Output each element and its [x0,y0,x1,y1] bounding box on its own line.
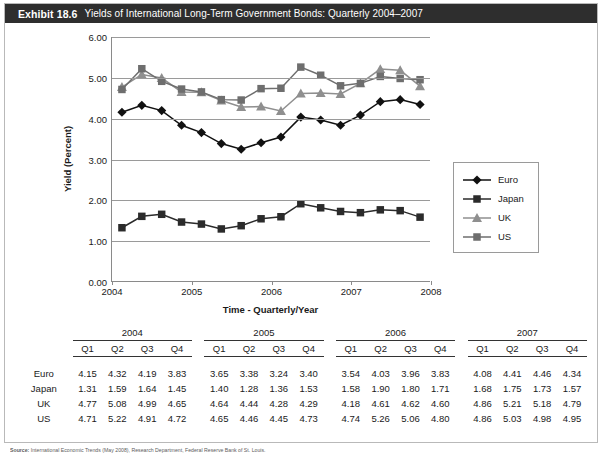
data-point [257,215,264,222]
year-header-2007: 2007 [468,325,587,341]
data-point [237,96,244,103]
table-cell: 4.19 [132,366,162,381]
table-gap-cell [324,366,336,381]
table-cell: 4.73 [294,411,324,426]
exhibit-number: Exhibit 18.6 [18,8,78,20]
table-gap-cell [192,366,204,381]
data-point [377,206,384,213]
table-cell: 5.06 [396,411,426,426]
year-header-2004: 2004 [73,325,192,341]
table-cell: 4.45 [264,411,294,426]
legend-marker-diamond-icon [462,173,492,187]
legend-item-euro[interactable]: Euro [462,170,538,189]
table-cell: 3.40 [294,366,324,381]
gridline [112,160,430,161]
table-cell: 4.34 [557,366,587,381]
x-axis-title: Time - Quarterly/Year [111,304,430,315]
table-cell: 1.57 [557,381,587,396]
gridline [112,78,430,79]
quarter-header-2004-Q2: Q2 [102,341,132,357]
quarter-header-2005-Q4: Q4 [294,341,324,357]
table-spacer-cell [15,357,587,367]
gridline [112,119,430,120]
table-cell: 4.91 [132,411,162,426]
data-point [297,63,304,70]
gridline [112,37,430,38]
quarter-header-2004-Q3: Q3 [132,341,162,357]
table-cell: 1.40 [204,381,234,396]
data-point [178,85,185,92]
table-cell: 3.83 [425,366,455,381]
table-cell: 4.18 [336,396,366,411]
year-header-2006: 2006 [336,325,455,341]
table-cell: 4.46 [234,411,264,426]
x-tick-label: 2004 [101,286,122,297]
plot-area: 0.001.002.003.004.005.006.00200420052006… [111,37,430,282]
header-gap [324,325,336,341]
table-corner-cell [15,325,73,341]
source-text: International Economic Trends (May 2008)… [31,447,266,453]
table-cell: 4.60 [425,396,455,411]
table-quarter-header-row: Q1Q2Q3Q4Q1Q2Q3Q4Q1Q2Q3Q4Q1Q2Q3Q4 [15,341,587,357]
data-point [137,101,146,110]
header-gap [324,341,336,357]
table-cell: 4.29 [294,396,324,411]
x-tick [431,281,432,285]
year-header-2005: 2005 [204,325,323,341]
data-point [317,204,324,211]
table-cell: 1.53 [294,381,324,396]
x-tick [351,281,352,285]
source-line: Source: International Economic Trends (M… [10,447,600,453]
header-gap [455,325,467,341]
data-point [198,220,205,227]
quarter-header-2007-Q4: Q4 [557,341,587,357]
table-cell: 1.45 [162,381,192,396]
table-cell: 4.72 [162,411,192,426]
table-cell: 4.65 [204,411,234,426]
data-point [237,145,246,154]
exhibit-header-bar: Exhibit 18.6 Yields of International Lon… [5,4,597,23]
x-tick-label: 2005 [181,286,202,297]
data-point [337,208,344,215]
data-point [337,82,344,89]
data-point [118,86,125,93]
table-gap-cell [324,381,336,396]
data-point [217,139,226,148]
legend-marker-triangle-icon [462,211,492,225]
table-row: Euro4.154.324.193.833.653.383.243.403.54… [15,366,587,381]
header-gap [192,325,204,341]
table-cell: 1.68 [468,381,498,396]
table-cell: 4.64 [204,396,234,411]
legend-item-us[interactable]: US [462,227,538,246]
series-euro [117,95,424,154]
table-cell: 4.08 [468,366,498,381]
table-cell: 4.99 [132,396,162,411]
data-point [415,100,424,109]
table-corner-cell [15,341,73,357]
table-cell: 4.77 [73,396,103,411]
legend-label: Japan [498,193,524,204]
legend-item-japan[interactable]: Japan [462,189,538,208]
quarter-header-2006-Q4: Q4 [425,341,455,357]
row-label-us: US [15,411,73,426]
gridline [112,200,430,201]
quarter-header-2007-Q1: Q1 [468,341,498,357]
series-uk [117,64,425,115]
exhibit-title: Yields of International Long-Term Govern… [85,8,423,19]
chart-region: Yield (Percent) 0.001.002.003.004.005.00… [5,23,597,325]
data-table-region: 2004 2005 2006 2007 Q1Q2Q3Q4Q1Q2Q3Q4Q1Q2… [5,325,597,426]
data-point [197,128,206,137]
legend-item-uk[interactable]: UK [462,208,538,227]
table-cell: 5.18 [527,396,557,411]
table-gap-cell [192,381,204,396]
row-label-uk: UK [15,396,73,411]
table-cell: 1.64 [132,381,162,396]
legend-label: Euro [498,174,518,185]
table-gap-cell [455,411,467,426]
data-point [218,225,225,232]
y-tick-label: 4.00 [89,113,108,124]
data-point [396,207,403,214]
data-point [256,138,265,147]
table-cell: 4.98 [527,411,557,426]
table-cell: 3.24 [264,366,294,381]
